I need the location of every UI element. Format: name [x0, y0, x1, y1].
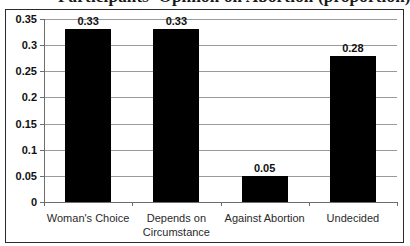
- y-axis-label: 0.25: [16, 65, 37, 77]
- y-tick-mark: [40, 97, 45, 98]
- y-axis-label: 0.2: [22, 91, 37, 103]
- x-tick-mark: [44, 202, 45, 206]
- y-axis-label: 0.1: [22, 144, 37, 156]
- y-tick-mark: [40, 45, 45, 46]
- chart-title-text: Participants' Opinion on Abortion (propo…: [58, 0, 410, 7]
- y-tick-mark: [40, 150, 45, 151]
- x-axis-category-label: Against Abortion: [225, 211, 305, 225]
- x-axis-label-line: Undecided: [327, 211, 380, 225]
- bar-value-label: 0.28: [342, 42, 363, 54]
- x-axis-label-line: Against Abortion: [225, 211, 305, 225]
- y-tick-mark: [40, 124, 45, 125]
- y-axis-line: [44, 19, 45, 202]
- bar: [153, 29, 199, 202]
- x-tick-mark: [132, 202, 133, 206]
- x-axis-category-label: Depends onCircumstance: [143, 211, 210, 239]
- bar: [65, 29, 111, 202]
- y-axis-label: 0: [31, 196, 37, 208]
- y-tick-mark: [40, 71, 45, 72]
- x-axis-category-label: Undecided: [327, 211, 380, 225]
- chart-frame: 00.050.10.150.20.250.30.350.33Woman's Ch…: [5, 9, 404, 243]
- y-axis-label: 0.05: [16, 170, 37, 182]
- x-tick-mark: [397, 202, 398, 206]
- x-axis-label-line: Woman's Choice: [47, 211, 130, 225]
- bar: [330, 56, 376, 202]
- bar-value-label: 0.33: [166, 15, 187, 27]
- x-tick-mark: [221, 202, 222, 206]
- chart-title-cropped: Participants' Opinion on Abortion (propo…: [0, 0, 410, 8]
- x-axis-label-line: Circumstance: [143, 225, 210, 239]
- bar-value-label: 0.05: [254, 162, 275, 174]
- bar-value-label: 0.33: [77, 15, 98, 27]
- y-axis-label: 0.3: [22, 39, 37, 51]
- x-axis-category-label: Woman's Choice: [47, 211, 130, 225]
- bar: [242, 176, 288, 202]
- x-tick-mark: [309, 202, 310, 206]
- plot-area: 00.050.10.150.20.250.30.350.33Woman's Ch…: [44, 19, 397, 202]
- y-tick-mark: [40, 19, 45, 20]
- y-axis-label: 0.15: [16, 118, 37, 130]
- x-axis-label-line: Depends on: [143, 211, 210, 225]
- y-tick-mark: [40, 176, 45, 177]
- y-axis-label: 0.35: [16, 13, 37, 25]
